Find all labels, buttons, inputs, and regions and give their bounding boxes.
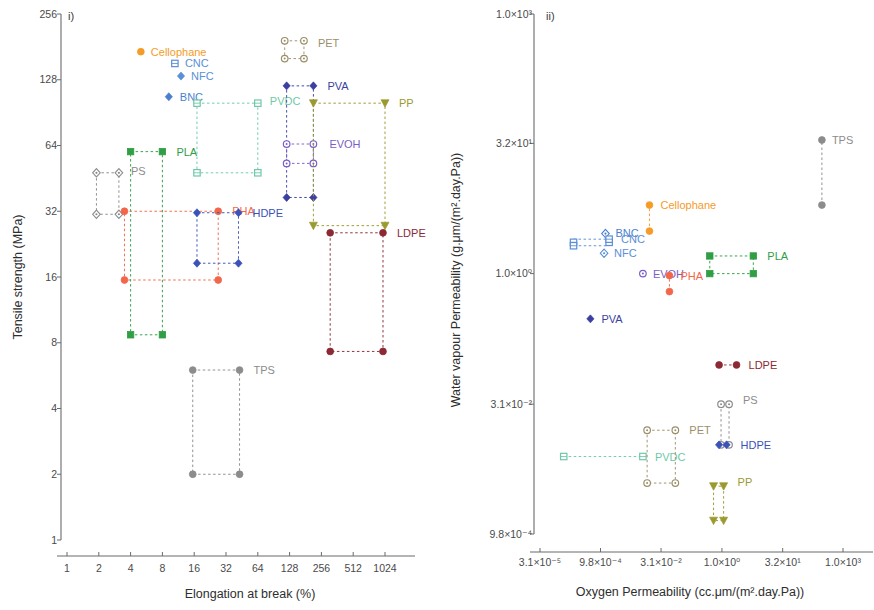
data-point-pla [159, 148, 165, 154]
y-tick-label: 1 [51, 534, 57, 546]
data-point-pet [281, 37, 288, 44]
series-pha: PHA [666, 270, 704, 295]
series-pp: PP [309, 97, 413, 229]
series-label-pla: PLA [767, 250, 788, 262]
data-point-pla [750, 253, 756, 259]
x-tick-label: 256 [313, 562, 331, 574]
marker-square-filled [127, 332, 133, 338]
series-label-pet: PET [318, 37, 340, 49]
marker-dot [303, 40, 305, 42]
data-point-ps [718, 401, 725, 408]
marker-triangle-down [381, 100, 389, 107]
series-label-evoh: EVOH [329, 138, 360, 150]
series-label-ldpe: LDPE [749, 359, 778, 371]
data-point-cnc [606, 236, 612, 242]
x-tick-label: 3.2×10¹ [765, 556, 801, 568]
data-point-ps [115, 169, 123, 177]
data-point-pvdc [561, 453, 567, 459]
series-box [330, 233, 383, 352]
data-point-pva [587, 315, 594, 323]
data-point-pva [310, 82, 317, 90]
marker-dot [646, 482, 648, 484]
data-point-pp [309, 100, 317, 107]
marker-circle-filled [819, 137, 826, 144]
series-label-ps: PS [131, 165, 146, 177]
data-point-pvdc [194, 170, 200, 176]
series-ldpe: LDPE [716, 359, 778, 371]
marker-dot [95, 172, 97, 174]
series-box [193, 370, 240, 474]
series-evoh: EVOH [283, 138, 360, 167]
series-label-hdpe: HDPE [741, 439, 772, 451]
scatter-figure: 124816326412825612481632641282565121024i… [0, 0, 874, 610]
marker-triangle-down [710, 483, 718, 490]
series-cellophane: Cellophane [646, 199, 716, 234]
marker-circle-filled [327, 348, 334, 355]
data-point-pha [215, 208, 222, 215]
series-pla: PLA [707, 250, 789, 277]
marker-dot [646, 429, 648, 431]
data-point-pla [127, 332, 133, 338]
series-label-pla: PLA [176, 146, 197, 158]
data-point-pva [283, 193, 290, 201]
marker-diamond-filled [193, 209, 200, 217]
data-point-tps [819, 202, 826, 209]
data-point-pvdc [255, 100, 261, 106]
figure-root: 124816326412825612481632641282565121024i… [0, 0, 874, 610]
data-point-pha [121, 277, 128, 284]
panel-label: i) [68, 10, 74, 22]
x-tick-label: 1.0×10⁰ [704, 556, 741, 568]
series-box [714, 486, 724, 520]
marker-circle-filled [666, 288, 673, 295]
series-tps: TPS [189, 364, 275, 478]
series-label-cellophane: Cellophane [660, 199, 716, 211]
series-hdpe: HDPE [193, 207, 283, 267]
marker-circle-filled [121, 277, 128, 284]
marker-dot [95, 213, 97, 215]
marker-triangle-down [309, 222, 317, 229]
series-box [285, 41, 304, 59]
data-point-pvdc [255, 170, 261, 176]
data-point-pet [644, 427, 651, 434]
data-point-evoh [283, 141, 290, 148]
data-point-cnc [172, 60, 178, 66]
y-axis-title: Water vapour Permeability (g.μm/(m².day.… [449, 153, 463, 408]
marker-diamond-filled [283, 82, 290, 90]
data-point-pet [281, 55, 288, 62]
series-tps: TPS [819, 134, 854, 208]
y-tick-label: 128 [39, 73, 57, 85]
marker-dot [720, 403, 722, 405]
series-box [96, 173, 118, 214]
series-box [574, 239, 610, 246]
series-box [287, 144, 314, 163]
data-point-ldpe [716, 362, 723, 369]
series-box [313, 103, 385, 225]
data-point-ldpe [327, 348, 334, 355]
data-point-evoh [640, 270, 647, 277]
x-tick-label: 3.1×10⁻⁵ [519, 556, 561, 568]
data-point-ldpe [380, 348, 387, 355]
series-hdpe: HDPE [715, 439, 771, 451]
data-point-cellophane [646, 228, 653, 235]
data-point-pla [707, 270, 713, 276]
series-pet: PET [281, 37, 339, 62]
data-point-evoh [283, 160, 290, 167]
data-point-tps [819, 137, 826, 144]
series-label-hdpe: HDPE [252, 207, 283, 219]
series-label-nfc: NFC [614, 247, 637, 259]
series-nfc: NFC [177, 70, 213, 82]
marker-square-filled [159, 148, 165, 154]
marker-dot [284, 58, 286, 60]
series-label-pha: PHA [680, 270, 703, 282]
marker-circle-filled [327, 229, 334, 236]
marker-circle-filled [236, 367, 243, 374]
series-cnc: CNC [172, 57, 209, 69]
data-point-hdpe [235, 259, 242, 267]
marker-circle-filled [666, 272, 673, 279]
data-point-pha [121, 208, 128, 215]
series-label-pvdc: PVDC [270, 95, 301, 107]
data-point-pla [707, 253, 713, 259]
y-tick-label: 1.0×10³ [496, 8, 532, 20]
data-point-pet [672, 427, 679, 434]
data-point-pha [666, 272, 673, 279]
